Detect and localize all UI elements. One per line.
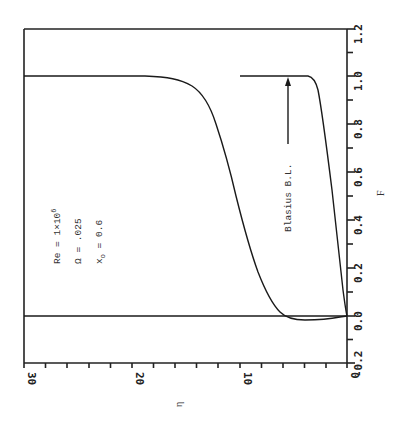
- eta-tick-30: 30: [25, 372, 38, 385]
- re-label: Re = 1×106: [50, 208, 63, 264]
- f-tick-1.0: 1.0: [352, 71, 365, 91]
- solution-curve: [24, 76, 347, 320]
- f-tick-0.2: 0.2: [352, 263, 365, 283]
- f-tick-neg0.2: -0.2: [352, 351, 365, 378]
- f-tick-0.6: 0.6: [352, 167, 365, 187]
- f-tick-0.0: 0.0: [352, 311, 365, 331]
- omega-label: Ω = .025: [73, 218, 84, 264]
- arrow-head-icon: [285, 77, 291, 86]
- eta-tick-20: 20: [133, 372, 146, 385]
- eta-tick-10: 10: [241, 372, 254, 385]
- f-tick-1.2: 1.2: [352, 24, 365, 44]
- f-tick-0.4: 0.4: [352, 215, 365, 235]
- f-axis-label: F: [375, 190, 386, 196]
- chart-svg: 30 20 10 0 -0.2 0.0 0.2 0.4 0.6 0.8 1.0 …: [0, 0, 402, 429]
- blasius-label: Blasius B.L.: [283, 164, 294, 232]
- xo-label: xo = 0.6: [94, 220, 107, 264]
- eta-axis-label: η: [173, 402, 184, 407]
- f-tick-0.8: 0.8: [352, 119, 365, 139]
